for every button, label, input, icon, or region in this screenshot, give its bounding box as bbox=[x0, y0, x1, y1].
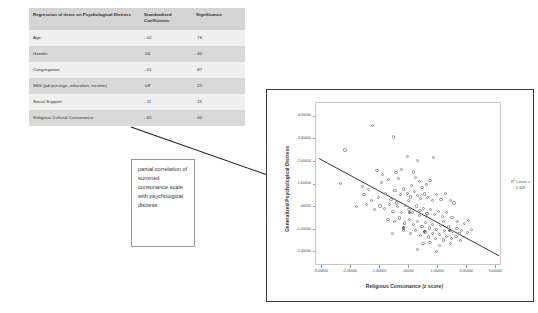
data-point bbox=[403, 221, 406, 224]
x-tick-mark bbox=[321, 265, 322, 268]
column-header-items: Regression of items on Psychological Dis… bbox=[29, 8, 140, 30]
data-point bbox=[439, 198, 442, 201]
data-point bbox=[418, 209, 421, 212]
row-significance: .40 bbox=[192, 46, 245, 62]
data-point bbox=[443, 229, 446, 232]
data-point bbox=[406, 192, 409, 195]
data-point bbox=[411, 211, 414, 214]
data-point bbox=[391, 210, 394, 213]
y-tick-label: 3.00000 bbox=[281, 136, 311, 140]
data-point bbox=[450, 216, 453, 219]
data-point bbox=[467, 219, 470, 222]
x-tick-mark bbox=[495, 265, 496, 268]
scatter-chart: Generalized Psychological Distress Relig… bbox=[266, 89, 534, 302]
data-point bbox=[422, 207, 425, 210]
data-point bbox=[435, 250, 438, 253]
plot-area bbox=[315, 102, 501, 265]
data-point bbox=[375, 169, 378, 172]
data-point bbox=[378, 204, 381, 207]
data-point bbox=[393, 220, 396, 223]
data-point bbox=[408, 211, 411, 214]
column-header-significance: Significance bbox=[192, 8, 245, 30]
data-point bbox=[414, 229, 417, 232]
row-label: Congregation bbox=[29, 62, 140, 78]
data-point bbox=[423, 230, 426, 233]
y-tick-label: -2.00000 bbox=[281, 249, 311, 253]
x-tick-mark bbox=[350, 265, 351, 268]
data-point bbox=[431, 199, 434, 202]
data-point bbox=[423, 192, 426, 195]
table-row: SES (job prestige, education, income).09… bbox=[29, 78, 245, 94]
y-axis-title: Generalized Psychological Distress bbox=[284, 124, 290, 254]
y-tick-label: 1.00000 bbox=[281, 181, 311, 185]
data-point bbox=[394, 171, 397, 174]
data-point bbox=[412, 170, 415, 173]
r2-value: 0.328 bbox=[516, 186, 526, 190]
x-axis-title: Religious Consonance (z score) bbox=[297, 283, 512, 289]
table-row: Religious Cultural Consonance-.65.00 bbox=[29, 110, 245, 126]
regression-table: Regression of items on Psychological Dis… bbox=[29, 8, 245, 126]
data-point bbox=[361, 185, 364, 188]
row-coefficient: -.65 bbox=[140, 110, 192, 126]
data-point bbox=[428, 241, 431, 244]
data-point bbox=[444, 192, 447, 195]
table-row: Social Support-.11.15 bbox=[29, 94, 245, 110]
data-point bbox=[428, 179, 431, 182]
data-point bbox=[420, 225, 423, 228]
y-tick-label: .00000 bbox=[281, 204, 311, 208]
y-tick-label: 4.00000 bbox=[281, 113, 311, 117]
table-header-row: Regression of items on Psychological Dis… bbox=[29, 8, 245, 30]
data-point bbox=[402, 226, 405, 229]
row-significance: .15 bbox=[192, 94, 245, 110]
data-point bbox=[442, 238, 445, 241]
row-coefficient: -.02 bbox=[140, 30, 192, 46]
data-point bbox=[454, 235, 457, 238]
data-point bbox=[404, 204, 407, 207]
row-coefficient: .09 bbox=[140, 78, 192, 94]
y-tick-label: 2.00000 bbox=[281, 159, 311, 163]
table-row: Gender.06.40 bbox=[29, 46, 245, 62]
row-label: Age bbox=[29, 30, 140, 46]
data-point bbox=[466, 231, 469, 234]
data-point bbox=[343, 148, 346, 151]
x-tick-label: 3.00000 bbox=[478, 269, 512, 273]
data-point bbox=[428, 226, 431, 229]
x-tick-mark bbox=[379, 265, 380, 268]
regression-line bbox=[316, 103, 501, 265]
row-significance: .00 bbox=[192, 110, 245, 126]
data-point bbox=[427, 235, 430, 238]
data-point bbox=[383, 207, 386, 210]
row-label: Gender bbox=[29, 46, 140, 62]
x-tick-mark bbox=[408, 265, 409, 268]
data-point bbox=[437, 210, 440, 213]
x-tick-mark bbox=[437, 265, 438, 268]
data-point bbox=[402, 187, 405, 190]
callout-text-box: partial correlation of summed consonance… bbox=[131, 159, 195, 247]
data-point bbox=[455, 227, 458, 230]
data-point bbox=[449, 242, 452, 245]
data-point bbox=[416, 248, 419, 251]
table-row: Age-.02.76 bbox=[29, 30, 245, 46]
data-point bbox=[441, 215, 444, 218]
row-label: Social Support bbox=[29, 94, 140, 110]
r2-text: Linear = bbox=[515, 180, 530, 184]
r-squared-annotation: R2 Linear = 0.328 bbox=[506, 178, 535, 192]
data-point bbox=[448, 229, 451, 232]
row-coefficient: .06 bbox=[140, 46, 192, 62]
row-coefficient: -.11 bbox=[140, 94, 192, 110]
row-label: Religious Cultural Consonance bbox=[29, 110, 140, 126]
data-point bbox=[431, 232, 434, 235]
row-significance: .87 bbox=[192, 62, 245, 78]
x-tick-mark bbox=[466, 265, 467, 268]
data-point bbox=[409, 195, 412, 198]
row-significance: .76 bbox=[192, 30, 245, 46]
data-point bbox=[371, 124, 374, 127]
data-point bbox=[362, 193, 365, 196]
data-point bbox=[415, 204, 418, 207]
row-coefficient: -.01 bbox=[140, 62, 192, 78]
data-point bbox=[388, 203, 391, 206]
y-tick-label: -1.00000 bbox=[281, 227, 311, 231]
data-point bbox=[452, 201, 455, 204]
table-row: Congregation-.01.87 bbox=[29, 62, 245, 78]
row-label: SES (job prestige, education, income) bbox=[29, 78, 140, 94]
